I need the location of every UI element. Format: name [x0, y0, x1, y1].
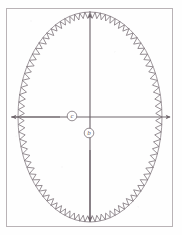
label-b-text: b — [87, 129, 91, 137]
figure-drawing: c b — [0, 0, 182, 235]
annotation-label-c: c — [67, 111, 77, 121]
figure-canvas: c b — [0, 0, 182, 235]
annotation-label-b: b — [84, 128, 94, 138]
